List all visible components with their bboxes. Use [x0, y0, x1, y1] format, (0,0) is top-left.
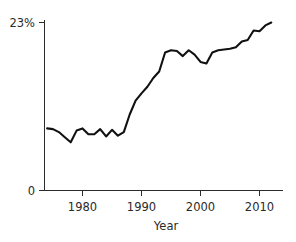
- y-tick-label-top: 23%: [9, 16, 35, 30]
- x-tick-label-2010: 2010: [245, 200, 274, 214]
- x-tick-label-1990: 1990: [127, 200, 156, 214]
- x-tick-label-1980: 1980: [68, 200, 97, 214]
- data-series-line: [47, 23, 271, 143]
- y-tick-label-bottom: 0: [28, 184, 35, 198]
- x-tick-label-2000: 2000: [186, 200, 215, 214]
- line-chart: 23% 0 1980 1990 2000 2010 Year: [0, 0, 296, 242]
- x-axis-title: Year: [153, 219, 179, 233]
- chart-container: 23% 0 1980 1990 2000 2010 Year: [0, 0, 296, 242]
